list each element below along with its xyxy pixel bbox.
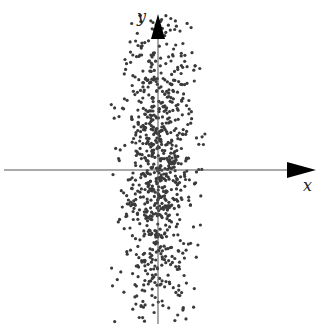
- data-point: [136, 218, 139, 221]
- data-point: [195, 256, 198, 259]
- data-point: [168, 282, 171, 285]
- data-point: [150, 142, 153, 145]
- data-point: [134, 192, 137, 195]
- data-point: [152, 163, 155, 166]
- data-point: [130, 115, 133, 118]
- data-point: [147, 93, 150, 96]
- data-point: [141, 96, 144, 99]
- data-point: [167, 88, 170, 91]
- data-point: [149, 229, 152, 232]
- data-point: [161, 122, 164, 125]
- data-point: [173, 207, 176, 210]
- data-point: [120, 189, 123, 192]
- data-point: [164, 62, 167, 65]
- data-point: [177, 250, 180, 253]
- data-point: [180, 162, 183, 165]
- data-point: [154, 191, 157, 194]
- data-point: [161, 299, 164, 302]
- data-point: [138, 208, 141, 211]
- data-point: [165, 106, 168, 109]
- data-point: [179, 239, 182, 242]
- data-point: [168, 158, 171, 161]
- data-point: [126, 253, 129, 256]
- data-point: [172, 286, 175, 289]
- data-point: [116, 278, 119, 281]
- data-point: [183, 54, 186, 57]
- data-point: [186, 22, 189, 25]
- data-point: [178, 218, 181, 221]
- data-point: [153, 69, 156, 72]
- data-point: [174, 19, 177, 22]
- data-point: [182, 242, 185, 245]
- data-point: [164, 261, 167, 264]
- data-point: [173, 70, 176, 73]
- data-point: [143, 89, 146, 92]
- data-point: [158, 283, 161, 286]
- data-point: [172, 79, 175, 82]
- data-point: [185, 104, 188, 107]
- data-point: [162, 125, 165, 128]
- data-point: [150, 105, 153, 108]
- data-point: [114, 147, 117, 150]
- data-point: [176, 134, 179, 137]
- data-point: [176, 66, 179, 69]
- data-point: [180, 198, 183, 201]
- data-point: [149, 206, 152, 209]
- data-point: [160, 234, 163, 237]
- data-point: [113, 106, 116, 109]
- data-point: [193, 64, 196, 67]
- data-point: [153, 311, 156, 314]
- data-point: [181, 133, 184, 136]
- data-point: [171, 144, 174, 147]
- data-point: [178, 267, 181, 270]
- data-point: [193, 79, 196, 82]
- data-point: [173, 319, 176, 322]
- data-point: [170, 73, 173, 76]
- data-point: [180, 72, 183, 75]
- data-point: [201, 135, 204, 138]
- data-point: [152, 100, 155, 103]
- data-point: [117, 157, 120, 160]
- data-point: [131, 53, 134, 56]
- data-point: [131, 171, 134, 174]
- data-point: [148, 122, 151, 125]
- data-point: [132, 207, 135, 210]
- data-point: [142, 229, 145, 232]
- data-point: [169, 29, 172, 32]
- data-point: [141, 70, 144, 73]
- data-point: [140, 47, 143, 50]
- data-point: [155, 251, 158, 254]
- data-point: [136, 212, 139, 215]
- data-point: [166, 117, 169, 120]
- data-point: [185, 249, 188, 252]
- data-point: [140, 187, 143, 190]
- data-point: [142, 253, 145, 256]
- data-point: [163, 194, 166, 197]
- data-point: [166, 247, 169, 250]
- data-point: [176, 91, 179, 94]
- data-point: [167, 24, 170, 27]
- data-point: [143, 279, 146, 282]
- data-point: [167, 164, 170, 167]
- data-point: [178, 181, 181, 184]
- data-point: [153, 171, 156, 174]
- data-point: [187, 157, 190, 160]
- data-point: [174, 119, 177, 122]
- data-point: [130, 187, 133, 190]
- data-point: [150, 54, 153, 57]
- data-point: [160, 71, 163, 74]
- data-point: [143, 41, 146, 44]
- data-point: [187, 196, 190, 199]
- data-point: [154, 131, 157, 134]
- data-point: [171, 261, 174, 264]
- data-point: [149, 145, 152, 148]
- data-point: [179, 83, 182, 86]
- data-point: [167, 306, 170, 309]
- data-point: [176, 233, 179, 236]
- data-point: [138, 54, 141, 57]
- data-point: [164, 224, 167, 227]
- data-point: [159, 252, 162, 255]
- data-point: [176, 222, 179, 225]
- data-point: [143, 174, 146, 177]
- data-point: [144, 269, 147, 272]
